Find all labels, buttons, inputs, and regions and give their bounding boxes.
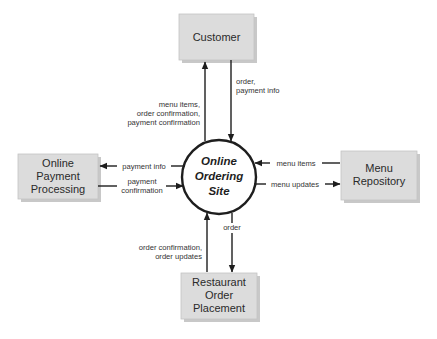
svg-text:order,: order, xyxy=(236,77,255,86)
flow-to-customer: menu items, order confirmation, payment … xyxy=(127,62,205,141)
svg-text:payment info: payment info xyxy=(122,162,165,171)
svg-text:payment: payment xyxy=(127,177,157,186)
entity-payment-label-line2: Payment xyxy=(36,170,79,182)
entity-restaurant-label-line2: Order xyxy=(205,289,233,301)
svg-text:order: order xyxy=(223,223,241,232)
entity-online-payment-processing: Online Payment Processing xyxy=(18,154,101,202)
entity-menu-label-line2: Repository xyxy=(353,175,406,187)
flow-from-customer: order, payment info xyxy=(231,60,279,141)
flow-from-menu: menu items xyxy=(255,159,340,168)
context-diagram: Customer Online Payment Processing Menu … xyxy=(0,0,437,339)
svg-text:confirmation: confirmation xyxy=(121,186,162,195)
flow-from-payment: payment confirmation xyxy=(98,177,183,195)
entity-customer: Customer xyxy=(179,14,257,63)
entity-restaurant-label-line3: Placement xyxy=(193,302,245,314)
flow-to-restaurant: order xyxy=(223,213,241,272)
flow-to-menu: menu updates xyxy=(254,180,340,189)
svg-text:order confirmation,: order confirmation, xyxy=(137,109,200,118)
flow-from-restaurant: order confirmation, order updates xyxy=(139,213,207,272)
svg-text:payment confirmation: payment confirmation xyxy=(127,118,200,127)
entity-customer-label: Customer xyxy=(193,31,241,43)
process-label-line3: Site xyxy=(208,185,230,197)
entity-payment-label-line1: Online xyxy=(42,157,74,169)
svg-text:menu items: menu items xyxy=(276,159,315,168)
entity-menu-repository: Menu Repository xyxy=(341,151,420,203)
flow-to-payment: payment info xyxy=(100,162,185,171)
svg-text:payment info: payment info xyxy=(236,86,279,95)
entity-payment-label-line3: Processing xyxy=(31,183,85,195)
svg-text:menu updates: menu updates xyxy=(271,180,319,189)
entity-menu-label-line1: Menu xyxy=(365,162,393,174)
process-online-ordering-site: Online Ordering Site xyxy=(182,140,256,214)
svg-text:order updates: order updates xyxy=(155,252,202,261)
entity-restaurant-order-placement: Restaurant Order Placement xyxy=(181,273,260,322)
entity-restaurant-label-line1: Restaurant xyxy=(192,276,246,288)
process-label-line2: Ordering xyxy=(195,170,244,182)
process-label-line1: Online xyxy=(201,155,237,167)
svg-text:order confirmation,: order confirmation, xyxy=(139,243,202,252)
svg-text:menu items,: menu items, xyxy=(159,100,200,109)
